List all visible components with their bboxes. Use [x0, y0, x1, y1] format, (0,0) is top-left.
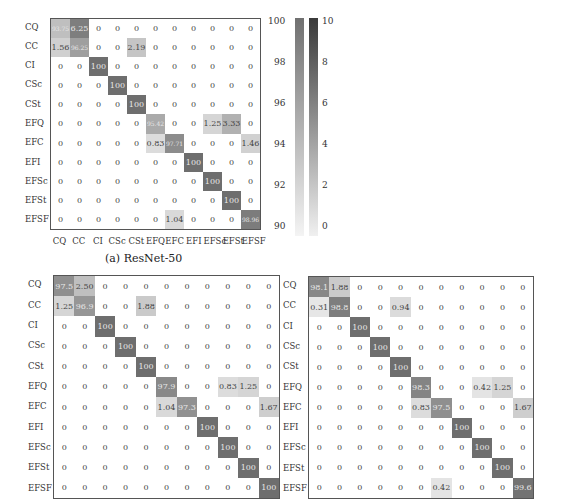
- matrix-cell: 0: [74, 337, 94, 357]
- matrix-cell: 0: [241, 153, 260, 172]
- matrix-cell: 0: [54, 316, 74, 336]
- matrix-cell: 100: [197, 417, 217, 437]
- matrix-cell: 97.5: [431, 398, 451, 418]
- matrix-cell: 0: [259, 437, 279, 457]
- matrix-cell: 1.88: [329, 277, 349, 297]
- colorbar-offdiagonal: [309, 18, 318, 236]
- matrix-cell: 0: [197, 316, 217, 336]
- matrix-cell: 0: [390, 458, 410, 478]
- matrix-cell: 2.19: [127, 38, 146, 57]
- matrix-cell: 0: [218, 458, 238, 478]
- matrix-cell: 1.04: [156, 397, 176, 417]
- matrix-cell: 0: [177, 417, 197, 437]
- matrix-cell: 0: [309, 438, 329, 458]
- y-axis-label: EFSF: [25, 214, 49, 224]
- matrix-cell: 0: [115, 377, 135, 397]
- matrix-cell: 0: [411, 277, 431, 297]
- matrix-cell: 0: [108, 95, 127, 114]
- matrix-cell: 0: [472, 317, 492, 337]
- y-axis-label: EFI: [28, 422, 43, 432]
- matrix-cell: 0: [431, 357, 451, 377]
- matrix-cell: 0: [222, 95, 241, 114]
- matrix-cell: 0: [241, 19, 260, 38]
- matrix-cell: 0: [203, 134, 222, 153]
- matrix-cell: 0: [156, 276, 176, 296]
- matrix-cell: 100: [115, 337, 135, 357]
- matrix-cell: 0: [127, 134, 146, 153]
- matrix-cell: 0: [390, 337, 410, 357]
- matrix-cell: 0: [222, 172, 241, 191]
- matrix-cell: 100: [203, 172, 222, 191]
- matrix-cell: 0: [411, 418, 431, 438]
- matrix-cell: 0: [222, 210, 241, 229]
- matrix-cell: 0: [241, 76, 260, 95]
- matrix-cell: 0: [165, 191, 184, 210]
- matrix-cell: 0: [390, 277, 410, 297]
- matrix-cell: 0: [472, 357, 492, 377]
- matrix-cell: 0: [127, 19, 146, 38]
- matrix-cell: 0: [95, 296, 115, 316]
- y-axis-label: EFSt: [25, 195, 46, 205]
- matrix-cell: 0: [329, 418, 349, 438]
- matrix-cell: 0.42: [472, 377, 492, 397]
- matrix-cell: 0.83: [411, 398, 431, 418]
- matrix-cell: 0: [89, 210, 108, 229]
- matrix-cell: 1.25: [492, 377, 512, 397]
- matrix-cell: 100: [452, 418, 472, 438]
- matrix-cell: 0: [54, 377, 74, 397]
- matrix-cell: 0: [108, 172, 127, 191]
- matrix-cell: 0: [350, 297, 370, 317]
- x-axis-label: CSt: [127, 236, 146, 246]
- matrix-cell: 0: [238, 417, 258, 437]
- matrix-cell: 0: [70, 114, 89, 133]
- matrix-cell: 3.33: [222, 114, 241, 133]
- matrix-cell: 0: [218, 337, 238, 357]
- matrix-cell: 0: [197, 458, 217, 478]
- confusion-matrix-3: 98.11.880000000000.3198.8000.94000000001…: [308, 276, 534, 499]
- matrix-cell: 0: [513, 337, 533, 357]
- matrix-cell: 0: [184, 114, 203, 133]
- matrix-cell: 0: [127, 57, 146, 76]
- y-axis-label: CSc: [28, 340, 45, 350]
- matrix-cell: 0: [127, 191, 146, 210]
- matrix-cell: 0: [431, 438, 451, 458]
- matrix-cell: 0: [70, 153, 89, 172]
- matrix-cell: 0: [259, 296, 279, 316]
- matrix-cell: 0: [165, 95, 184, 114]
- matrix-cell: 0: [74, 357, 94, 377]
- matrix-cell: 0: [309, 377, 329, 397]
- matrix-cell: 0: [390, 438, 410, 458]
- matrix-cell: 0: [184, 210, 203, 229]
- matrix-cell: 0: [146, 191, 165, 210]
- matrix-cell: 0: [492, 317, 512, 337]
- matrix-cell: 0: [431, 377, 451, 397]
- matrix-cell: 0: [513, 377, 533, 397]
- matrix-cell: 0: [146, 76, 165, 95]
- matrix-cell: 0: [452, 297, 472, 317]
- x-axis-label: EFSt: [223, 236, 242, 246]
- matrix-cell: 0: [51, 191, 70, 210]
- matrix-cell: 0: [108, 191, 127, 210]
- matrix-cell: 6.25: [70, 19, 89, 38]
- matrix-cell: 0: [218, 296, 238, 316]
- matrix-cell: 0: [472, 297, 492, 317]
- matrix-cell: 0: [203, 76, 222, 95]
- matrix-cell: 0: [136, 478, 156, 498]
- x-axis-label: CC: [69, 236, 88, 246]
- x-axis-label: EFC: [165, 236, 184, 246]
- matrix-cell: 100: [184, 153, 203, 172]
- matrix-cell: 0.42: [431, 478, 451, 498]
- colorbar-diagonal-tick: 96: [274, 98, 285, 108]
- matrix-cell: 0: [370, 357, 390, 377]
- colorbar-offdiagonal-tick: 8: [322, 57, 328, 67]
- matrix-cell: 1.88: [136, 296, 156, 316]
- matrix-cell: 0: [329, 458, 349, 478]
- matrix-cell: 0: [136, 316, 156, 336]
- matrix-cell: 0: [184, 134, 203, 153]
- matrix-cell: 0: [513, 277, 533, 297]
- matrix-cell: 0: [431, 317, 451, 337]
- matrix-cell: 0: [197, 296, 217, 316]
- matrix-cell: 0: [51, 76, 70, 95]
- matrix-cell: 0: [241, 114, 260, 133]
- x-axis-label: EFQ: [146, 236, 165, 246]
